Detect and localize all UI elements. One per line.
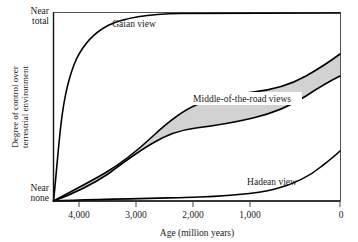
y-axis-title-line2: terrestrial environment: [20, 65, 30, 148]
x-tick-label-2000: 2,000: [182, 210, 204, 220]
y-axis-bottom-label-line2: none: [31, 193, 49, 203]
x-tick-label-1000: 1,000: [239, 210, 261, 220]
x-tick-label-4000: 4,000: [68, 210, 90, 220]
hadean-view-curve: [54, 151, 341, 201]
annotation-gaian-view: Gaian view: [112, 19, 156, 29]
y-axis-top-label-line1: Near: [31, 6, 50, 16]
chart-figure: 4,000 3,000 2,000 1,000 0 Age (million y…: [0, 0, 358, 242]
y-axis-bottom-label-line1: Near: [31, 183, 50, 193]
x-tick-label-3000: 3,000: [125, 210, 147, 220]
annotation-middle-of-the-road-views: Middle-of-the-road views: [193, 94, 291, 104]
x-tick-label-0: 0: [339, 210, 344, 220]
annotation-hadean-view: Hadean view: [247, 177, 297, 187]
chart-svg: 4,000 3,000 2,000 1,000 0 Age (million y…: [0, 0, 358, 242]
y-axis-title-line1: Degree of control over: [10, 66, 20, 148]
y-axis-title-group: Degree of control over terrestrial envir…: [10, 65, 30, 148]
y-axis-top-label-line2: total: [32, 16, 49, 26]
x-axis-title: Age (million years): [160, 228, 234, 239]
